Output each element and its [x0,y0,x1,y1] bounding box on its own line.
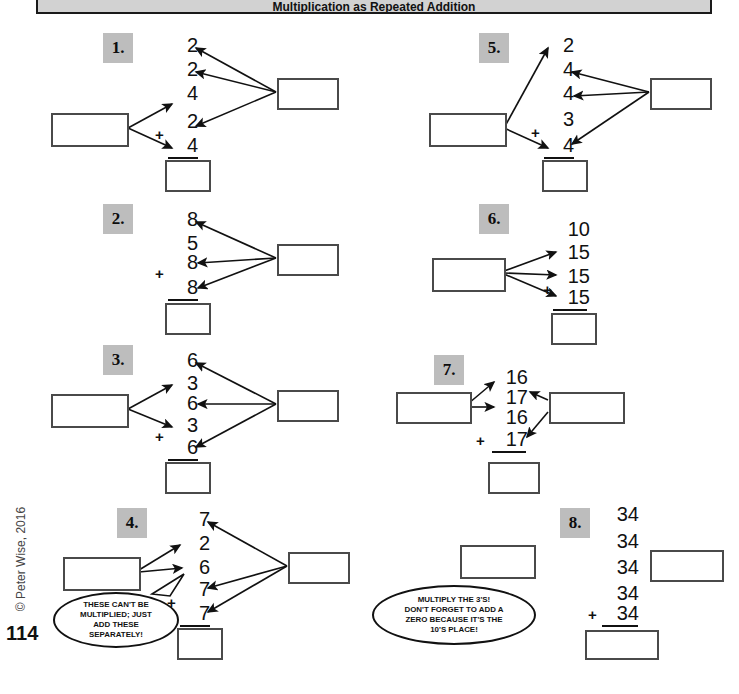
addend-digit: 4 [546,82,574,105]
answer-box[interactable] [551,313,597,345]
hint-bubble-tail-problem-4 [150,572,190,602]
factor-box-left[interactable] [460,545,536,579]
factor-box-left[interactable] [396,392,472,424]
problem-number-badge: 8. [560,508,590,538]
addend-digit: 34 [605,556,639,579]
answer-box[interactable] [165,160,211,192]
plus-sign: + [476,432,485,449]
factor-box-right[interactable] [549,392,625,424]
factor-box-left[interactable] [51,113,129,147]
hint-line: THESE CAN'T BE [80,600,152,610]
addend-digit: 3 [546,108,574,131]
addend-digit: 15 [556,265,590,288]
sum-rule [168,459,198,461]
sum-rule [553,309,587,311]
addend-digit: 15 [556,241,590,264]
answer-box[interactable] [585,630,659,660]
problem-number-badge: 3. [103,345,133,375]
hint-line: MULTIPLY THE 3'S! [404,595,503,605]
addend-digit: 4 [170,134,198,157]
addend-digit: 34 [605,530,639,553]
hint-line: 10'S PLACE! [404,625,503,635]
hint-line: DON'T FORGET TO ADD A [404,605,503,615]
factor-box-right[interactable] [288,552,350,584]
addend-digit: 17 [494,428,528,451]
answer-box[interactable] [165,303,211,335]
problem-number-badge: 1. [103,33,133,63]
factor-box-right[interactable] [277,244,339,276]
addend-digit: 2 [170,58,198,81]
factor-box-right[interactable] [650,78,712,110]
copyright-notice: © Peter Wise, 2016 [14,494,28,624]
factor-box-left[interactable] [429,113,507,147]
addend-digit: 7 [182,508,210,531]
factor-box-left[interactable] [63,557,141,591]
addend-digit: 8 [170,276,198,299]
addend-digit: 2 [182,532,210,555]
addend-digit: 4 [546,134,574,157]
hint-line: ADD THESE [80,620,152,630]
addend-digit: 3 [170,414,198,437]
sum-rule [168,157,198,159]
factor-box-right[interactable] [650,550,724,582]
addend-digit: 10 [556,218,590,241]
answer-box[interactable] [542,160,588,192]
addend-digit: 34 [605,503,639,526]
problem-number-badge: 4. [117,508,147,538]
factor-box-left[interactable] [51,394,129,428]
addend-digit: 6 [170,349,198,372]
worksheet-page: Multiplication as Repeated Addition © Pe… [0,0,739,694]
sum-rule [544,157,574,159]
page-number: 114 [6,622,38,645]
addend-digit: 15 [556,286,590,309]
addend-digit: 6 [170,392,198,415]
hint-line: SEPARATELY! [80,630,152,640]
plus-sign: + [588,606,597,623]
plus-sign: + [543,281,552,298]
addend-digit: 4 [546,58,574,81]
worksheet-header: Multiplication as Repeated Addition [36,0,712,14]
problem-number-badge: 7. [434,355,464,385]
hint-bubble-problem-8-tens: MULTIPLY THE 3'S! DON'T FORGET TO ADD A … [372,585,536,645]
addend-digit: 2 [546,34,574,57]
factor-box-right[interactable] [277,78,339,110]
worksheet-title: Multiplication as Repeated Addition [273,0,476,14]
addend-digit: 8 [170,208,198,231]
addend-digit: 6 [170,436,198,459]
sum-rule [602,625,638,627]
plus-sign: + [531,124,540,141]
problem-number-badge: 2. [103,204,133,234]
addend-digit: 34 [605,602,639,625]
addend-digit: 4 [170,82,198,105]
addend-digit: 8 [170,251,198,274]
problem-number-badge: 6. [479,204,509,234]
hint-line: MULTIPLIED; JUST [80,610,152,620]
sum-rule [168,299,198,301]
answer-box[interactable] [165,462,211,494]
plus-sign: + [155,126,164,143]
addend-digit: 2 [170,34,198,57]
answer-box[interactable] [177,628,223,660]
plus-sign: + [155,265,164,282]
sum-rule [180,625,210,627]
plus-sign: + [155,428,164,445]
addend-digit: 2 [170,110,198,133]
addend-digit: 16 [494,406,528,429]
sum-rule [492,451,526,453]
answer-box[interactable] [488,462,540,494]
factor-box-left[interactable] [432,258,506,292]
addend-digit: 7 [182,602,210,625]
hint-line: ZERO BECAUSE IT'S THE [404,615,503,625]
factor-box-right[interactable] [277,390,339,422]
problem-number-badge: 5. [479,33,509,63]
